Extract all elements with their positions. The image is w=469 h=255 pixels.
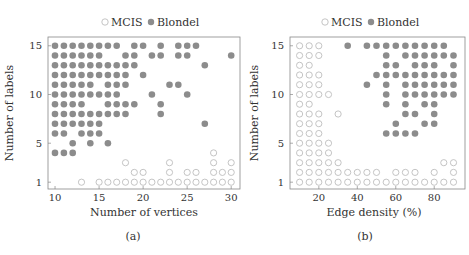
blondel-point bbox=[450, 81, 457, 88]
blondel-point bbox=[87, 111, 94, 118]
blondel-point bbox=[402, 81, 409, 88]
blondel-point bbox=[393, 130, 400, 137]
blondel-point bbox=[412, 72, 419, 79]
mcis-point bbox=[297, 160, 303, 166]
mcis-point bbox=[393, 179, 399, 185]
blondel-point bbox=[228, 52, 235, 59]
blondel-point bbox=[131, 43, 138, 50]
blondel-point bbox=[87, 91, 94, 98]
mcis-point bbox=[316, 140, 322, 146]
mcis-point bbox=[335, 169, 341, 175]
blondel-point bbox=[412, 91, 419, 98]
blondel-point bbox=[61, 130, 68, 137]
mcis-point bbox=[297, 111, 303, 117]
blondel-point bbox=[175, 81, 182, 88]
blondel-point bbox=[193, 43, 200, 50]
blondel-point bbox=[364, 43, 371, 50]
mcis-point bbox=[325, 140, 331, 146]
mcis-point bbox=[306, 62, 312, 68]
blondel-point bbox=[52, 81, 59, 88]
blondel-point bbox=[431, 72, 438, 79]
blondel-point bbox=[69, 43, 76, 50]
x-tick-label: 60 bbox=[389, 192, 402, 203]
mcis-point bbox=[122, 160, 128, 166]
blondel-point bbox=[393, 43, 400, 50]
mcis-point bbox=[306, 130, 312, 136]
blondel-point bbox=[431, 62, 438, 69]
blondel-point bbox=[52, 150, 59, 157]
mcis-point bbox=[441, 179, 447, 185]
blondel-point bbox=[87, 72, 94, 79]
mcis-point bbox=[78, 179, 84, 185]
mcis-point bbox=[228, 169, 234, 175]
blondel-point bbox=[450, 91, 457, 98]
mcis-point bbox=[228, 179, 234, 185]
blondel-point bbox=[450, 72, 457, 79]
blondel-point bbox=[122, 111, 129, 118]
blondel-point bbox=[402, 43, 409, 50]
blondel-point bbox=[149, 52, 156, 59]
y-tick-label: 15 bbox=[29, 40, 42, 51]
blondel-point bbox=[78, 52, 85, 59]
blondel-point bbox=[431, 52, 438, 59]
mcis-point bbox=[354, 179, 360, 185]
blondel-point bbox=[402, 111, 409, 118]
blondel-point bbox=[96, 130, 103, 137]
blondel-point bbox=[105, 81, 112, 88]
blondel-point bbox=[105, 72, 112, 79]
mcis-point bbox=[306, 101, 312, 107]
mcis-point bbox=[335, 179, 341, 185]
mcis-point bbox=[211, 179, 217, 185]
blondel-point bbox=[364, 81, 371, 88]
blondel-point bbox=[61, 150, 68, 157]
blondel-point bbox=[122, 72, 129, 79]
legend-mcis-label: MCIS bbox=[331, 16, 363, 29]
mcis-point bbox=[306, 91, 312, 97]
blondel-point bbox=[78, 120, 85, 127]
blondel-point bbox=[412, 111, 419, 118]
mcis-point bbox=[306, 52, 312, 58]
blondel-point bbox=[105, 140, 112, 147]
blondel-point bbox=[113, 62, 120, 69]
y-tick-label: 5 bbox=[278, 138, 284, 149]
blondel-point bbox=[61, 43, 68, 50]
mcis-point bbox=[306, 43, 312, 49]
blondel-point bbox=[96, 111, 103, 118]
blondel-point bbox=[69, 111, 76, 118]
mcis-point bbox=[422, 179, 428, 185]
x-tick-label: 10 bbox=[49, 192, 62, 203]
x-tick-label: 80 bbox=[428, 192, 441, 203]
blondel-point bbox=[69, 62, 76, 69]
blondel-point bbox=[344, 43, 351, 50]
blondel-point bbox=[421, 43, 428, 50]
blondel-point bbox=[202, 62, 209, 69]
mcis-point bbox=[297, 130, 303, 136]
blondel-point bbox=[78, 81, 85, 88]
blondel-point bbox=[412, 130, 419, 137]
blondel-point bbox=[78, 72, 85, 79]
mcis-point bbox=[393, 169, 399, 175]
mcis-point bbox=[140, 179, 146, 185]
blondel-point bbox=[412, 52, 419, 59]
mcis-point bbox=[96, 179, 102, 185]
blondel-point bbox=[122, 62, 129, 69]
mcis-point bbox=[450, 160, 456, 166]
blondel-point bbox=[393, 62, 400, 69]
blondel-point bbox=[383, 43, 390, 50]
blondel-point bbox=[131, 52, 138, 59]
data-points bbox=[297, 43, 457, 186]
blondel-point bbox=[184, 91, 191, 98]
blondel-point bbox=[157, 43, 164, 50]
mcis-point bbox=[316, 121, 322, 127]
mcis-point bbox=[412, 179, 418, 185]
data-points bbox=[52, 43, 235, 186]
blondel-point bbox=[69, 81, 76, 88]
mcis-point bbox=[202, 179, 208, 185]
blondel-point bbox=[441, 72, 448, 79]
mcis-point bbox=[325, 160, 331, 166]
x-axis-label: Edge density (%) bbox=[326, 206, 421, 219]
blondel-point bbox=[61, 81, 68, 88]
x-tick-label: 20 bbox=[312, 192, 325, 203]
blondel-point bbox=[402, 72, 409, 79]
blondel-point bbox=[450, 62, 457, 69]
